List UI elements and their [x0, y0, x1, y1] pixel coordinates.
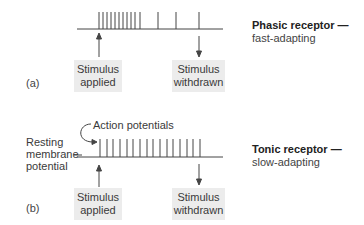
action-potentials-label: Action potentials: [93, 119, 174, 131]
box-line-2: withdrawn: [172, 76, 225, 89]
label-line-1: Resting: [26, 136, 79, 148]
stimulus-withdrawn-box-a: Stimulus withdrawn: [172, 60, 225, 92]
phasic-receptor-title: Phasic receptor — fast-adapting: [252, 19, 349, 45]
title-text: Tonic receptor —: [252, 143, 342, 156]
stimulus-withdrawn-box-b: Stimulus withdrawn: [172, 188, 225, 220]
stimulus-withdrawn-arrow-b: [197, 164, 202, 185]
label-line-3: potential: [26, 160, 79, 172]
subtitle-text: slow-adapting: [252, 156, 342, 169]
resting-membrane-potential-label: Resting membrane potential: [26, 136, 79, 172]
box-line-1: Stimulus: [172, 63, 225, 76]
label-line-2: membrane: [26, 148, 79, 160]
panel-label-a: (a): [26, 77, 39, 89]
box-line-2: withdrawn: [172, 204, 225, 217]
stimulus-applied-box-a: Stimulus applied: [74, 60, 122, 92]
box-line-1: Stimulus: [172, 191, 225, 204]
phasic-spike-train: [77, 12, 223, 29]
panel-label-b: (b): [26, 202, 39, 214]
tonic-receptor-title: Tonic receptor — slow-adapting: [252, 143, 342, 169]
tonic-spike-train: [77, 139, 223, 157]
stimulus-withdrawn-arrow-a: [197, 36, 202, 57]
title-text: Phasic receptor —: [252, 19, 349, 32]
stimulus-applied-arrow-a: [97, 33, 102, 57]
box-line-1: Stimulus: [74, 191, 122, 204]
subtitle-text: fast-adapting: [252, 32, 349, 45]
stimulus-applied-box-b: Stimulus applied: [74, 188, 122, 220]
box-line-2: applied: [74, 204, 122, 217]
box-line-1: Stimulus: [74, 63, 122, 76]
box-line-2: applied: [74, 76, 122, 89]
stimulus-applied-arrow-b: [97, 165, 102, 187]
